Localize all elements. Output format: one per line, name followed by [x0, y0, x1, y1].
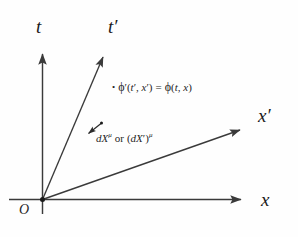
t-prime-axis-label: t′	[108, 17, 117, 36]
x-axis-label: x	[261, 190, 269, 209]
lhs-paren-close: )	[149, 81, 153, 93]
x-prime-axis-label: x′	[258, 106, 271, 125]
origin-point	[40, 197, 45, 202]
t-axis-label: t	[36, 17, 41, 36]
equals-sign: =	[153, 81, 165, 93]
t-prime-axis-line	[43, 57, 104, 200]
rhs-paren-close: )	[188, 81, 192, 93]
spacetime-diagram-figure: t t′ x x′ O •ϕ′(t′, x′)=ϕ(t, x) dXμor(dX…	[0, 0, 298, 237]
origin-label: O	[19, 203, 29, 217]
displacement-vector-endpoint-dot	[100, 122, 103, 125]
dx-prime-symbol: dX	[131, 132, 143, 144]
scalar-field-invariance-annotation: •ϕ′(t′, x′)=ϕ(t, x)	[112, 81, 192, 93]
or-conjunction: or	[112, 132, 127, 144]
displacement-vector-label: dXμor(dX′)μ	[96, 132, 152, 144]
dx-symbol: dX	[96, 132, 108, 144]
diagram-canvas	[0, 0, 298, 237]
dx-prime-index-mu: μ	[149, 131, 153, 139]
